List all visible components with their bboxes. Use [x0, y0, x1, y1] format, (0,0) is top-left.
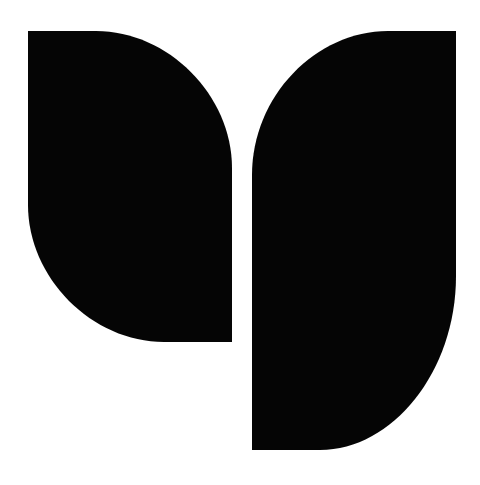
logo-mark: [0, 0, 480, 485]
logo-canvas: Logo Mark Abstract two-petal logo mark: [0, 0, 480, 485]
